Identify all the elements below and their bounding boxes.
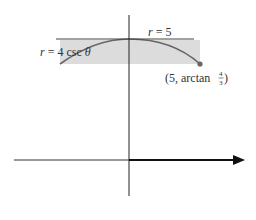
point-label-close: ) xyxy=(224,71,228,85)
arrowhead-icon xyxy=(233,155,245,165)
point-label-numerator: 4 xyxy=(219,70,223,78)
point-label: (5, arctan xyxy=(165,71,210,85)
curve-label: r = 4 csc θ xyxy=(40,45,91,59)
endpoint-dot xyxy=(197,61,202,66)
polar-diagram: r = 5 r = 4 csc θ (5, arctan 4 3 ) xyxy=(0,0,256,220)
point-label-denominator: 3 xyxy=(219,79,223,87)
line-label: r = 5 xyxy=(148,25,171,39)
